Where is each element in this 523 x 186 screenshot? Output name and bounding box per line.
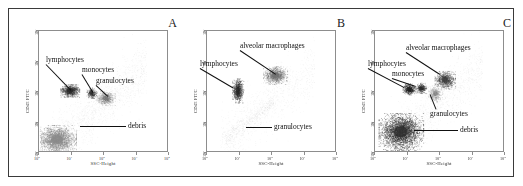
y-tick-label: 104 [33,29,39,35]
panel-c: C 100101102103104100101102103104SSC-Heig… [350,8,515,177]
y-tick-label: 100 [201,151,207,157]
y-tick-label: 100 [33,151,39,157]
x-axis-label: SSC-Height [38,161,168,166]
x-axis-label: SSC-Height [374,161,504,166]
granulocytes-label: granulocytes [274,123,312,130]
y-tick-label: 104 [369,29,375,35]
y-axis-label: CD45 FITC [25,89,30,113]
y-tick-label: 101 [201,121,207,127]
y-axis-label: CD45 FITC [193,89,198,113]
y-tick-label: 101 [369,121,375,127]
y-tick-label: 102 [33,90,39,96]
debris-leader-line [80,126,126,127]
granulocytes-label: granulocytes [96,77,134,84]
lymphocytes-label: lymphocytes [46,56,84,63]
panel-letter-a: A [168,16,177,31]
panel-letter-b: B [337,16,345,31]
alveolar-macrophages-label: alveolar macrophages [240,42,305,49]
debris-label: debris [128,122,146,129]
debris-label: debris [460,126,478,133]
debris-leader-line [414,130,458,131]
panel-letter-c: C [503,16,511,31]
alveolar-macrophages-label: alveolar macrophages [406,44,471,51]
y-tick-label: 102 [369,90,375,96]
panel-a: A 100101102103104100101102103104SSC-Heig… [14,8,179,177]
y-tick-label: 103 [33,60,39,66]
x-axis-label: SSC-Height [206,161,336,166]
granulocytes-label: granulocytes [430,110,468,117]
y-tick-label: 102 [201,90,207,96]
monocytes-label: monocytes [82,66,114,73]
panel-b: B 100101102103104100101102103104SSC-Heig… [182,8,347,177]
granulocytes-leader-line [246,127,272,128]
flow-cytometry-figure: A 100101102103104100101102103104SSC-Heig… [0,0,523,186]
lymphocytes-label: lymphocytes [368,60,406,67]
monocytes-label: monocytes [392,70,424,77]
y-axis-label: CD45 FITC [361,89,366,113]
lymphocytes-label: lymphocytes [200,60,238,67]
y-tick-label: 101 [33,121,39,127]
y-tick-label: 100 [369,151,375,157]
y-tick-label: 104 [201,29,207,35]
